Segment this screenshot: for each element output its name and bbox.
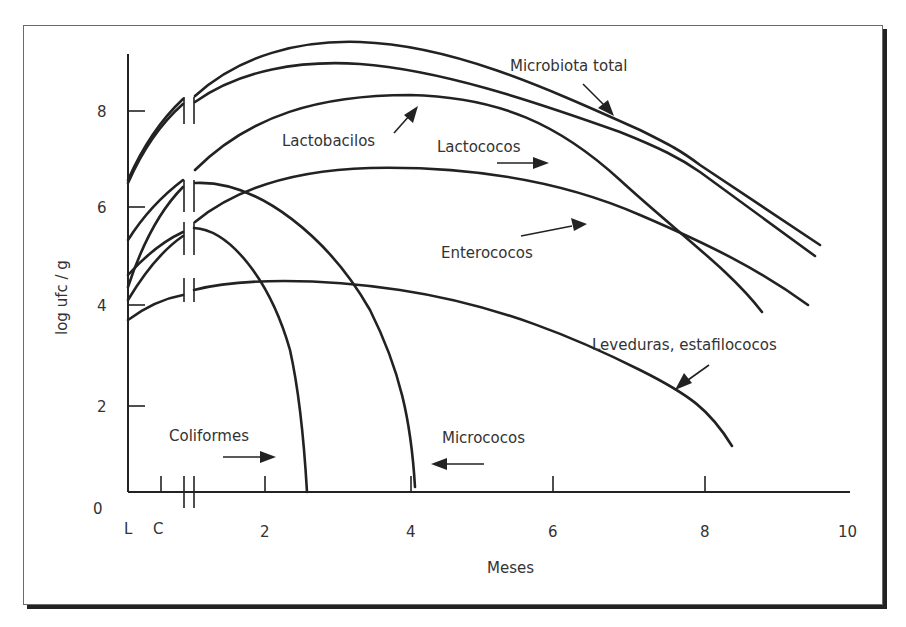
x-tick-8: 8 (700, 523, 710, 541)
y-tick-0: 0 (93, 500, 103, 518)
y-tick-6: 6 (97, 199, 107, 217)
label-lactococos: Lactococos (437, 138, 521, 156)
curve-leveduras-estafilococos (128, 281, 732, 446)
chart: 8 6 4 2 0 L C 2 4 6 8 10 log ufc / g Mes… (0, 0, 906, 627)
y-tick-8: 8 (97, 103, 107, 121)
x-tick-6: 6 (548, 523, 558, 541)
label-microbiota-total: Microbiota total (510, 57, 627, 75)
tick-labels: 8 6 4 2 0 L C 2 4 6 8 10 (93, 103, 857, 541)
curves (128, 42, 820, 492)
x-tick-L: L (124, 520, 133, 538)
y-axis-title: log ufc / g (53, 260, 71, 335)
curve-lactobacilos (128, 63, 815, 256)
x-tick-C: C (153, 520, 163, 538)
x-tick-4: 4 (406, 523, 416, 541)
label-leveduras-estafilococos: Leveduras, estafilococos (592, 336, 777, 354)
label-micrococos: Micrococos (442, 429, 525, 447)
curve-break-markers (184, 97, 194, 302)
curve-coliformes (128, 228, 307, 492)
y-tick-2: 2 (97, 398, 107, 416)
label-lactobacilos: Lactobacilos (282, 132, 375, 150)
x-tick-10: 10 (838, 523, 857, 541)
x-tick-2: 2 (260, 523, 270, 541)
label-enterococos: Enterococos (441, 244, 533, 262)
label-coliformes: Coliformes (169, 427, 249, 445)
series-labels: Microbiota total Lactobacilos Lactococos… (169, 57, 777, 447)
x-axis-title: Meses (487, 559, 534, 577)
y-tick-4: 4 (97, 297, 107, 315)
